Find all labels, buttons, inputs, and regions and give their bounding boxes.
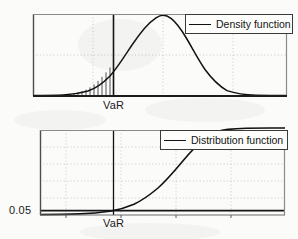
figure-canvas: Density function VaR Distribution functi…	[0, 0, 298, 239]
density-var-label: VaR	[103, 100, 124, 111]
distribution-var-label: VaR	[103, 218, 124, 229]
density-legend[interactable]: Density function	[185, 14, 293, 34]
distribution-legend-label: Distribution function	[191, 135, 283, 146]
density-legend-line-swatch	[189, 24, 211, 25]
density-legend-label: Density function	[216, 19, 291, 30]
distribution-y-tick-label: 0.05	[9, 205, 31, 216]
distribution-legend-line-swatch	[164, 140, 186, 141]
distribution-legend[interactable]: Distribution function	[160, 130, 288, 150]
plot-vector-layer	[0, 0, 298, 239]
